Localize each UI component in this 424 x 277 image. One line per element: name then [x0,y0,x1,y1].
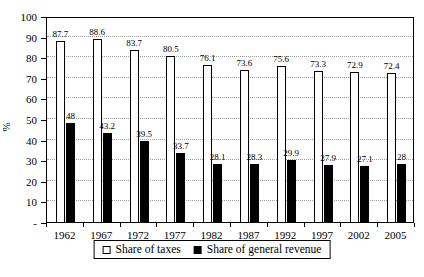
plot-area: 87.74888.643.283.739.580.533.776.128.173… [46,17,414,223]
x-tick-mark-4 [193,223,194,227]
bar-share-of-general-revenue-1992 [287,160,296,222]
x-tick-mark-6 [267,223,268,227]
value-label-taxes-2002: 72.9 [347,60,363,70]
value-label-taxes-1997: 73.3 [310,59,326,69]
bar-share-of-taxes-1997 [314,71,323,222]
value-label-taxes-1967: 88.6 [89,27,105,37]
bar-share-of-general-revenue-1977 [176,153,185,222]
value-label-revenue-1972: 39.5 [136,129,152,139]
bar-share-of-general-revenue-1997 [324,165,333,222]
value-label-revenue-2002: 27.1 [357,154,373,164]
bar-share-of-general-revenue-1982 [213,164,222,222]
legend-swatch-share-of-taxes [103,246,111,254]
value-label-revenue-1977: 33.7 [173,141,189,151]
value-label-taxes-1982: 76.1 [200,53,216,63]
value-label-revenue-1967: 43.2 [99,121,115,131]
bar-share-of-taxes-1977 [166,56,175,222]
value-label-revenue-1992: 29.9 [283,148,299,158]
legend: Share of taxes Share of general revenue [94,240,331,259]
value-label-revenue-1962: 48 [66,111,75,121]
y-tick-label-80: 80 [26,53,37,64]
bar-share-of-general-revenue-1967 [103,133,112,222]
value-label-taxes-1962: 87.7 [53,29,69,39]
value-label-taxes-1992: 75.6 [273,54,289,64]
value-label-revenue-1982: 28.1 [210,152,226,162]
bar-share-of-taxes-1987 [240,70,249,222]
y-tick-label-70: 70 [26,73,37,84]
x-tick-label-2002: 2002 [348,229,370,241]
bar-share-of-general-revenue-2005 [397,164,406,222]
x-tick-label-1962: 1962 [53,229,75,241]
legend-item-share-of-general-revenue: Share of general revenue [194,243,322,256]
y-axis: -102030405060708090100 [0,17,46,223]
y-tick-label-10: 10 [26,197,37,208]
y-tick-label-100: 100 [21,12,38,23]
x-tick-mark-5 [230,223,231,227]
value-label-revenue-1987: 28.3 [247,152,263,162]
value-label-revenue-2005: 28 [397,152,406,162]
gridline-80 [47,56,413,57]
x-tick-mark-10 [414,223,415,227]
value-label-taxes-2005: 72.4 [384,61,400,71]
x-tick-mark-7 [304,223,305,227]
value-label-taxes-1977: 80.5 [163,44,179,54]
y-tick-label-30: 30 [26,156,37,167]
bar-share-of-general-revenue-2002 [360,166,369,222]
legend-swatch-share-of-general-revenue [194,246,202,254]
bar-share-of-general-revenue-1987 [250,164,259,222]
bar-share-of-taxes-1992 [277,66,286,222]
x-tick-label-2005: 2005 [385,229,407,241]
value-label-revenue-1997: 27.9 [320,153,336,163]
value-label-taxes-1987: 73.6 [237,58,253,68]
bar-share-of-general-revenue-1972 [140,141,149,222]
bar-share-of-taxes-2002 [350,72,359,222]
y-tick-label-50: 50 [26,115,37,126]
bar-chart: % -102030405060708090100 87.74888.643.28… [0,0,424,277]
x-tick-mark-9 [377,223,378,227]
x-tick-mark-2 [120,223,121,227]
bar-share-of-general-revenue-1962 [66,123,75,222]
y-tick-label-20: 20 [26,176,37,187]
y-tick-label-90: 90 [26,32,37,43]
x-tick-mark-8 [340,223,341,227]
legend-label-share-of-taxes: Share of taxes [116,243,181,256]
x-tick-mark-0 [46,223,47,227]
y-tick-label-60: 60 [26,94,37,105]
legend-item-share-of-taxes: Share of taxes [103,243,181,256]
value-label-taxes-1972: 83.7 [126,38,142,48]
legend-label-share-of-general-revenue: Share of general revenue [207,243,322,256]
bar-share-of-taxes-1982 [203,65,212,222]
x-tick-mark-1 [83,223,84,227]
y-tick-label-40: 40 [26,135,37,146]
x-tick-mark-3 [156,223,157,227]
bar-share-of-taxes-1962 [56,41,65,222]
bar-share-of-taxes-2005 [387,73,396,222]
